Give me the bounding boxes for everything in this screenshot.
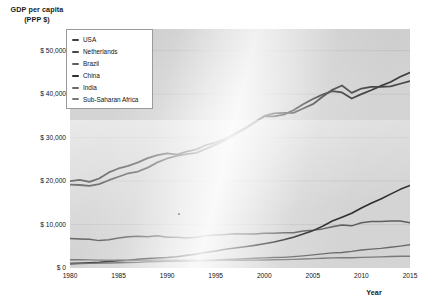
y-axis-tick-label: $ 0 xyxy=(4,264,66,271)
legend-item-label: Netherlands xyxy=(83,48,117,55)
y-axis-tick-label: $ 40,000 xyxy=(4,90,66,97)
legend-item[interactable]: Brazil xyxy=(72,58,149,70)
x-axis-tick-label: 1985 xyxy=(99,272,139,279)
chart-legend: USANetherlandsBrazilChinaIndiaSub-Sahara… xyxy=(66,29,153,109)
legend-item[interactable]: India xyxy=(72,82,149,94)
x-axis-tick-label: 2015 xyxy=(390,272,430,279)
legend-swatch-icon xyxy=(72,98,79,100)
x-axis-tick-label: 1990 xyxy=(147,272,187,279)
legend-item-label: India xyxy=(83,84,97,91)
legend-item-label: Sub-Saharan Africa xyxy=(83,96,138,103)
series-line-brazil xyxy=(70,221,410,241)
y-axis-tick-label: $ 30,000 xyxy=(4,134,66,141)
x-axis-tick-label: 2005 xyxy=(293,272,333,279)
legend-swatch-icon xyxy=(72,39,79,41)
y-axis-tick-label: $ 50,000 xyxy=(4,47,66,54)
y-axis-tick-label: $ 10,000 xyxy=(4,221,66,228)
legend-item[interactable]: Netherlands xyxy=(72,46,149,58)
x-axis-tick-label: 2010 xyxy=(341,272,381,279)
gdp-per-capita-line-chart: GDP per capita(PPP $) $ 50,000$ 40,000$ … xyxy=(0,0,430,308)
y-axis-tick-label: $ 20,000 xyxy=(4,177,66,184)
legend-item[interactable]: Sub-Saharan Africa xyxy=(72,93,149,105)
dust-speck xyxy=(178,213,180,215)
legend-swatch-icon xyxy=(72,51,79,53)
legend-item[interactable]: China xyxy=(72,70,149,82)
legend-swatch-icon xyxy=(72,75,79,77)
legend-item-label: USA xyxy=(83,36,96,43)
y-axis-tick-labels: $ 50,000$ 40,000$ 30,000$ 20,000$ 10,000… xyxy=(0,0,66,308)
legend-swatch-icon xyxy=(72,63,79,65)
legend-swatch-icon xyxy=(72,87,79,89)
x-axis-tick-label: 1995 xyxy=(196,272,236,279)
x-axis-tick-label: 1980 xyxy=(50,272,90,279)
legend-item-label: Brazil xyxy=(83,60,99,67)
x-axis-tick-labels: 19801985199019952000200520102015 xyxy=(0,272,430,286)
x-axis-title: Year xyxy=(356,288,392,298)
x-axis-tick-label: 2000 xyxy=(244,272,284,279)
legend-item-label: China xyxy=(83,72,100,79)
legend-item[interactable]: USA xyxy=(72,34,149,46)
